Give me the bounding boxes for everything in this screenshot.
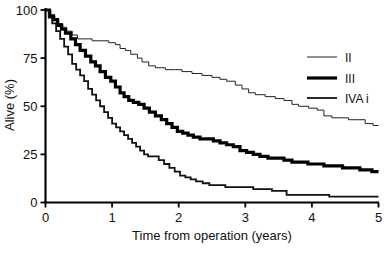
x-axis-title: Time from operation (years) [132,228,292,243]
x-tick-label: 0 [42,210,49,225]
plot-axes [45,8,380,203]
legend-label-iva-i: IVA i [345,92,369,106]
series-line-ii [46,10,379,126]
x-tick-label: 4 [308,210,315,225]
x-tick-label: 5 [375,210,382,225]
series-line-iii [46,10,379,172]
y-tick-label: 100 [16,3,38,18]
legend-label-ii: II [345,51,352,65]
survival-chart-figure: 0255075100 012345 Time from operation (y… [0,0,389,257]
x-tick-label: 2 [175,210,182,225]
y-tick-label: 25 [23,147,37,162]
y-axis-tick-labels: 0255075100 [16,3,38,211]
series-line-iva-i [46,10,379,197]
x-axis-tick-labels: 012345 [42,210,382,225]
y-tick-label: 75 [23,51,37,66]
x-tick-label: 1 [108,210,115,225]
y-tick-label: 0 [30,195,37,210]
series-lines [46,10,379,197]
chart-legend: IIIIIIVA i [307,51,369,106]
y-axis-title: Alive (%) [2,79,17,131]
survival-chart-svg: 0255075100 012345 Time from operation (y… [0,0,389,257]
y-tick-label: 50 [23,99,37,114]
legend-label-iii: III [345,72,355,86]
x-tick-label: 3 [242,210,249,225]
